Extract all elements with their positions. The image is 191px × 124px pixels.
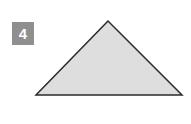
triangle-shape <box>36 21 182 95</box>
triangle-figure <box>0 0 191 124</box>
